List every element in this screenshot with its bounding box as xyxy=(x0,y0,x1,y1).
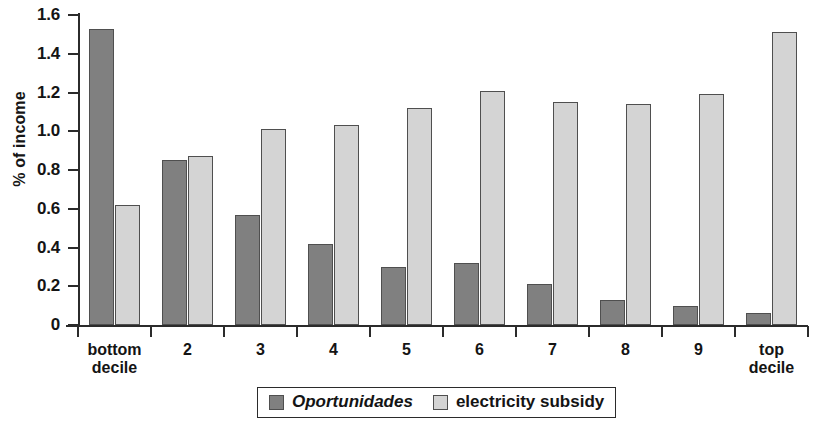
x-axis-tick xyxy=(77,326,79,337)
bar xyxy=(89,29,114,325)
bar xyxy=(115,205,140,325)
x-axis-tick xyxy=(296,326,298,337)
chart-legend: Oportunidadeselectricity subsidy xyxy=(257,387,616,418)
bar xyxy=(600,300,625,325)
bar xyxy=(381,267,406,325)
x-axis-tick xyxy=(661,326,663,337)
x-axis-tick xyxy=(223,326,225,337)
x-axis-tick xyxy=(807,326,809,337)
x-axis-category-label: bottom decile xyxy=(78,341,151,377)
y-axis-tick-label: 0 xyxy=(0,315,60,335)
x-axis-tick xyxy=(515,326,517,337)
legend-entry: electricity subsidy xyxy=(433,392,604,412)
y-axis-tick-label: 1.0 xyxy=(0,121,60,141)
bar xyxy=(162,160,187,325)
bar xyxy=(673,306,698,325)
x-axis-tick xyxy=(369,326,371,337)
y-axis-tick-label: 0.4 xyxy=(0,238,60,258)
legend-label: electricity subsidy xyxy=(456,392,604,412)
x-axis-tick xyxy=(442,326,444,337)
plot-area xyxy=(78,15,808,325)
bar xyxy=(454,263,479,325)
x-axis-category-label: 5 xyxy=(370,341,443,359)
legend-swatch-icon xyxy=(269,395,284,410)
x-axis-line xyxy=(66,325,808,327)
y-axis-tick-label: 0.2 xyxy=(0,276,60,296)
x-axis-tick xyxy=(588,326,590,337)
bar-chart: % of income 00.20.40.60.81.01.21.41.6 bo… xyxy=(0,0,815,423)
x-axis-tick xyxy=(150,326,152,337)
bar xyxy=(626,104,651,325)
bar xyxy=(334,125,359,325)
legend-swatch-icon xyxy=(433,395,448,410)
x-axis-category-label: 6 xyxy=(443,341,516,359)
legend-label: Oportunidades xyxy=(292,392,413,412)
bar xyxy=(308,244,333,325)
bar xyxy=(261,129,286,325)
y-axis-tick-label: 0.6 xyxy=(0,199,60,219)
x-axis-category-label: 7 xyxy=(516,341,589,359)
y-axis-tick-label: 1.2 xyxy=(0,83,60,103)
bar xyxy=(480,91,505,325)
bar xyxy=(527,284,552,325)
legend-entry: Oportunidades xyxy=(269,392,413,412)
bar xyxy=(699,94,724,325)
bar xyxy=(772,32,797,325)
x-axis-category-label: 3 xyxy=(224,341,297,359)
x-axis-category-label: 8 xyxy=(589,341,662,359)
x-axis-category-label: 2 xyxy=(151,341,224,359)
y-axis-tick-label: 0.8 xyxy=(0,160,60,180)
bar xyxy=(553,102,578,325)
x-axis-category-label: top decile xyxy=(735,341,808,377)
y-axis-tick-label: 1.6 xyxy=(0,5,60,25)
x-axis-tick xyxy=(734,326,736,337)
bar xyxy=(188,156,213,325)
y-axis-tick-label: 1.4 xyxy=(0,44,60,64)
x-axis-category-label: 4 xyxy=(297,341,370,359)
x-axis-category-label: 9 xyxy=(662,341,735,359)
bar xyxy=(746,313,771,325)
bar xyxy=(407,108,432,325)
bar xyxy=(235,215,260,325)
